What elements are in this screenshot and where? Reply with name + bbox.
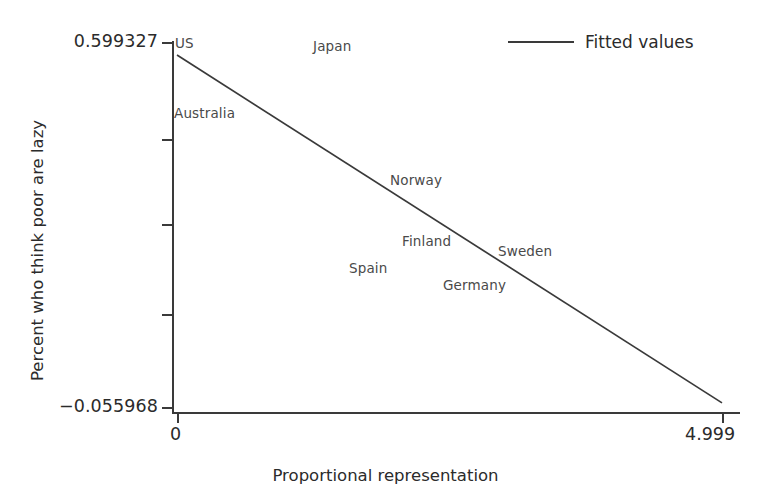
point-label-us: US <box>175 35 194 51</box>
chart-legend: Fitted values <box>508 32 694 52</box>
fitted-values-line <box>0 0 771 503</box>
legend-line-swatch-icon <box>508 41 574 43</box>
y-axis-tick-mark <box>162 407 173 409</box>
x-axis-title: Proportional representation <box>0 466 771 485</box>
x-axis-line <box>172 412 740 414</box>
point-label-japan: Japan <box>313 38 351 54</box>
point-label-sweden: Sweden <box>498 243 552 259</box>
y-axis-min-tick-label: −0.055968 <box>22 396 158 416</box>
x-axis-min-tick-label: 0 <box>170 424 181 444</box>
y-axis-tick-mark <box>162 42 173 44</box>
point-label-norway: Norway <box>390 172 442 188</box>
point-label-germany: Germany <box>443 277 506 293</box>
y-axis-tick-mark <box>162 224 173 226</box>
scatter-chart: 0.599327 −0.055968 0 4.999 Percent who t… <box>0 0 771 503</box>
point-label-finland: Finland <box>402 233 451 249</box>
y-axis-tick-mark <box>162 314 173 316</box>
point-label-spain: Spain <box>349 260 387 276</box>
y-axis-line <box>172 41 174 414</box>
y-axis-title: Percent who think poor are lazy <box>28 120 47 381</box>
y-axis-max-tick-label: 0.599327 <box>30 31 158 51</box>
x-axis-tick-mark <box>722 413 724 423</box>
x-axis-tick-mark <box>177 413 179 423</box>
x-axis-max-tick-label: 4.999 <box>685 424 735 444</box>
legend-entry-label: Fitted values <box>585 32 694 52</box>
y-axis-tick-mark <box>162 139 173 141</box>
point-label-australia: Australia <box>174 105 235 121</box>
